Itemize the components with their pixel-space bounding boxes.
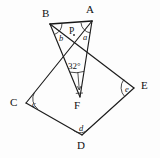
- point-label-P: P: [69, 27, 74, 37]
- vertex-label-D: D: [77, 140, 85, 151]
- geometry-canvas: [0, 0, 160, 158]
- geometry-figure: A B C D E F P a b c d e 32°: [0, 0, 160, 158]
- angle-label-c: c: [32, 100, 36, 109]
- angle-label-e: e: [125, 85, 129, 94]
- angle-arc-f-32: [70, 71, 84, 72]
- vertex-label-E: E: [141, 80, 148, 91]
- vertex-label-C: C: [10, 97, 17, 108]
- edge-D-E: [82, 88, 134, 135]
- vertex-label-A: A: [86, 4, 94, 15]
- angle-label-a: a: [83, 33, 87, 42]
- vertex-label-F: F: [74, 100, 80, 111]
- angle-label-b: b: [59, 34, 63, 43]
- edge-B-A: [50, 21, 92, 24]
- vertex-label-B: B: [42, 8, 49, 19]
- angle-label-d: d: [79, 124, 83, 133]
- angle-label-32-degrees: 32°: [68, 62, 81, 71]
